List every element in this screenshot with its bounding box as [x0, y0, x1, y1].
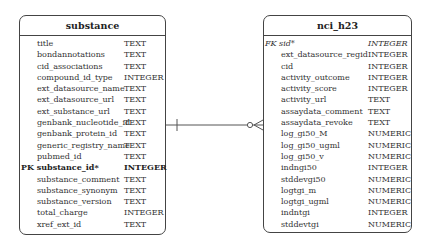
zero-cardinality-icon — [247, 122, 252, 127]
relationship-connector[interactable] — [0, 0, 426, 248]
